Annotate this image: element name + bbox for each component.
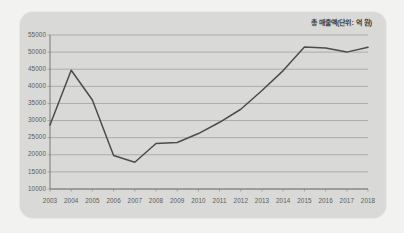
y-axis-tick-label: 25000 (28, 133, 46, 140)
x-axis-tick-label: 2013 (255, 197, 270, 204)
x-axis-tick-label: 2005 (85, 197, 100, 204)
y-axis-tick-label: 30000 (28, 116, 46, 123)
x-axis-tick-label: 2009 (170, 197, 185, 204)
y-axis-tick-label: 50000 (28, 48, 46, 55)
x-axis-tick-label: 2015 (297, 197, 312, 204)
y-axis-tick-label: 40000 (28, 82, 46, 89)
x-axis-tick-label: 2018 (361, 197, 376, 204)
x-axis-tick-label: 2007 (128, 197, 143, 204)
y-axis-tick-label: 45000 (28, 65, 46, 72)
y-axis-tick-label: 35000 (28, 99, 46, 106)
axes-group (48, 35, 369, 192)
x-axis-tick-label: 2012 (234, 197, 249, 204)
line-chart: 5500050000450004000035000300002500020000… (20, 12, 386, 218)
x-axis-tick-label: 2016 (318, 197, 333, 204)
y-axis-tick-label: 55000 (28, 31, 46, 38)
series-group (50, 47, 368, 162)
x-axis-tick-label: 2014 (276, 197, 291, 204)
x-axis-tick-label: 2017 (340, 197, 355, 204)
x-axis-tick-label: 2010 (191, 197, 206, 204)
legend-label: 총 매출액(단위: 억 원) (311, 18, 372, 27)
x-axis-tick-label: 2011 (213, 197, 227, 204)
chart-card: 5500050000450004000035000300002500020000… (20, 12, 386, 218)
x-axis-tick-label: 2003 (43, 197, 58, 204)
x-axis-tick-label: 2008 (149, 197, 164, 204)
x-axis-tick-label: 2006 (106, 197, 121, 204)
chart-canvas: 5500050000450004000035000300002500020000… (20, 12, 386, 218)
y-axis-tick-label: 15000 (28, 168, 46, 175)
y-axis-tick-label: 10000 (28, 185, 46, 192)
y-axis-tick-label: 20000 (28, 150, 46, 157)
series-line (50, 47, 368, 162)
x-axis-tick-label: 2004 (64, 197, 79, 204)
x-axis-tick-labels: 2003200420052006200720082009201020112012… (43, 197, 376, 204)
y-axis-tick-labels: 5500050000450004000035000300002500020000… (28, 31, 46, 192)
